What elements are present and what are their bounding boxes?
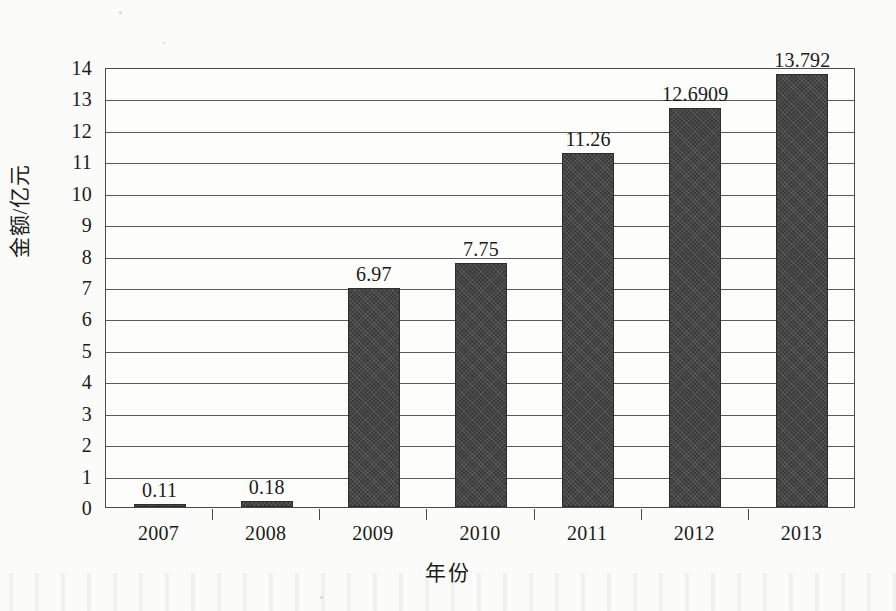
x-axis-tick-label-2011: 2011 bbox=[527, 523, 647, 543]
bar-2009 bbox=[348, 288, 400, 507]
bar-value-label-2013: 13.792 bbox=[732, 50, 872, 70]
y-axis-tick-label: 12 bbox=[48, 121, 92, 141]
y-axis-tick-label: 9 bbox=[48, 215, 92, 235]
x-axis-tick-mark bbox=[426, 509, 427, 520]
scan-speck bbox=[119, 11, 122, 14]
y-axis-tick-label: 8 bbox=[48, 247, 92, 267]
y-axis-tick-label: 11 bbox=[48, 152, 92, 172]
gridline bbox=[106, 226, 854, 227]
x-axis-tick-label-2013: 2013 bbox=[741, 523, 861, 543]
x-axis-tick-label-2007: 2007 bbox=[99, 523, 219, 543]
x-axis-tick-label-2012: 2012 bbox=[634, 523, 754, 543]
x-axis-tick-mark bbox=[641, 509, 642, 520]
bar-2008 bbox=[241, 501, 293, 507]
bar-value-label-2012: 12.6909 bbox=[625, 84, 765, 104]
bar-2013 bbox=[776, 74, 828, 507]
x-axis-title: 年份 bbox=[0, 556, 896, 586]
y-axis-tick-label: 5 bbox=[48, 341, 92, 361]
x-axis-tick-mark bbox=[212, 509, 213, 520]
y-axis-tick-label: 2 bbox=[48, 435, 92, 455]
x-axis-tick-mark bbox=[319, 509, 320, 520]
bar-2012 bbox=[669, 108, 721, 507]
x-axis-tick-label-2010: 2010 bbox=[420, 523, 540, 543]
y-axis-title: 金额/亿元 bbox=[3, 131, 33, 291]
scan-speck bbox=[163, 42, 165, 44]
gridline bbox=[106, 195, 854, 196]
x-axis-tick-mark bbox=[748, 509, 749, 520]
plot-area: 0.110.186.977.7511.2612.690913.792 bbox=[105, 68, 855, 508]
x-axis-tick-label-2008: 2008 bbox=[206, 523, 326, 543]
bar-value-label-2011: 11.26 bbox=[518, 129, 658, 149]
y-axis-tick-label: 3 bbox=[48, 404, 92, 424]
y-axis-tick-label: 10 bbox=[48, 184, 92, 204]
bar-2007 bbox=[134, 504, 186, 507]
y-axis-tick-label: 1 bbox=[48, 467, 92, 487]
bar-value-label-2010: 7.75 bbox=[411, 239, 551, 259]
scan-speck bbox=[320, 596, 323, 599]
gridline bbox=[106, 163, 854, 164]
bar-2010 bbox=[455, 263, 507, 507]
chart-page: 金额/亿元 01234567891011121314 0.110.186.977… bbox=[0, 0, 896, 611]
bar-value-label-2008: 0.18 bbox=[197, 477, 337, 497]
y-axis-tick-label: 4 bbox=[48, 372, 92, 392]
y-axis-tick-label: 13 bbox=[48, 89, 92, 109]
bar-2011 bbox=[562, 153, 614, 507]
bar-value-label-2009: 6.97 bbox=[304, 264, 444, 284]
gridline bbox=[106, 132, 854, 133]
y-axis-tick-label: 7 bbox=[48, 278, 92, 298]
x-axis-tick-mark bbox=[534, 509, 535, 520]
y-axis-tick-label: 14 bbox=[48, 58, 92, 78]
y-axis-tick-label: 6 bbox=[48, 309, 92, 329]
y-axis-tick-label: 0 bbox=[48, 498, 92, 518]
x-axis-tick-label-2009: 2009 bbox=[313, 523, 433, 543]
